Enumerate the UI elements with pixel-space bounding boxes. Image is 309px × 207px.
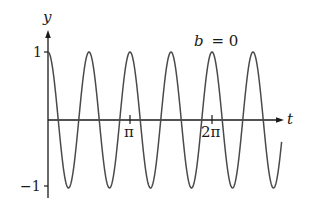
y-axis-label: y (42, 8, 52, 26)
y-axis-arrow-icon (45, 30, 51, 38)
parameter-annotation: b = 0 (194, 32, 238, 50)
chart: y t 1 −1 π 2π b = 0 (0, 0, 309, 207)
x-tick-label-2pi: 2π (201, 123, 221, 141)
y-tick-label-1: 1 (33, 44, 42, 60)
x-axis-arrow-icon (276, 117, 284, 123)
x-axis-label: t (287, 110, 294, 128)
x-tick-label-pi: π (124, 123, 134, 141)
y-tick-label-neg1: −1 (20, 178, 41, 194)
annotation-value: = 0 (211, 32, 238, 50)
annotation-variable: b (194, 32, 204, 50)
